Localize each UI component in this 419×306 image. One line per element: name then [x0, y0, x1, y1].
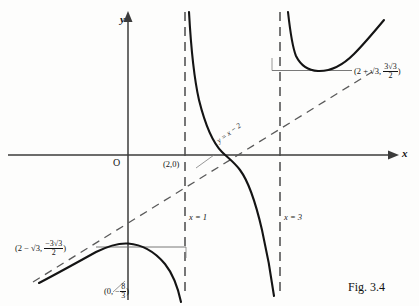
figure-caption: Fig. 3.4	[348, 281, 385, 293]
figure-container: y x O (2,0) x = 1 x = 3 y = x − 2 (2 + √…	[0, 0, 419, 306]
local-min-suffix: )	[398, 66, 401, 76]
local-max-leader	[96, 247, 186, 258]
graph-canvas	[0, 0, 419, 306]
local-max-label: (2 − √3, −3√32)	[15, 240, 66, 257]
x-intercept-label: (2,0)	[163, 160, 179, 169]
y-intercept-label: (0, −83)	[104, 283, 129, 300]
x-axis	[8, 151, 399, 160]
local-min-fraction: 3√32	[383, 63, 397, 80]
y-intercept-suffix: )	[126, 286, 129, 296]
vertical-asymptote-x1-label: x = 1	[189, 213, 207, 222]
local-max-prefix: (2 − √3,	[15, 243, 44, 253]
y-intercept-prefix: (0, −	[104, 286, 120, 296]
local-max-fraction: −3√32	[44, 240, 63, 257]
x-intercept-leader	[196, 155, 214, 168]
vertical-asymptote-x3-label: x = 3	[284, 213, 302, 222]
local-max-denominator: 2	[44, 249, 63, 257]
local-max-suffix: )	[63, 243, 66, 253]
y-intercept-denominator: 3	[120, 292, 126, 300]
x-axis-label: x	[402, 148, 408, 159]
local-min-label: (2 + √3, 3√32)	[354, 63, 401, 80]
origin-label: O	[113, 158, 120, 168]
local-min-denominator: 2	[383, 72, 397, 80]
curve-middle-branch	[189, 12, 274, 296]
local-min-prefix: (2 + √3,	[354, 66, 383, 76]
oblique-asymptote	[33, 72, 372, 282]
y-axis-label: y	[120, 14, 125, 25]
y-intercept-fraction: 83	[120, 283, 126, 300]
